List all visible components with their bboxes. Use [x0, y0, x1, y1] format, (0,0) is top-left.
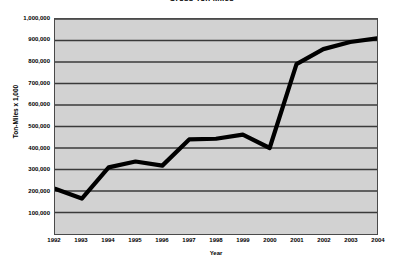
chart-title: Gross Ton Miles [0, 0, 403, 3]
plot-area [54, 18, 378, 235]
x-axis-title: Year [54, 250, 378, 256]
y-tick-label: 800,000 [0, 58, 50, 64]
y-tick-label: 600,000 [0, 101, 50, 107]
y-tick-label: 1,000,000 [0, 15, 50, 21]
y-tick-label: 500,000 [0, 123, 50, 129]
plot-svg [55, 19, 377, 234]
y-tick-label: 200,000 [0, 188, 50, 194]
y-tick-label: 700,000 [0, 80, 50, 86]
x-tick-label: 2004 [358, 237, 398, 243]
y-axis-tick-labels: 100,000200,000300,000400,000500,000600,0… [0, 0, 50, 265]
y-tick-label: 400,000 [0, 145, 50, 151]
gross-ton-miles-chart: Gross Ton Miles Ton-Miles x 1,000 100,00… [0, 0, 403, 265]
y-tick-label: 300,000 [0, 166, 50, 172]
y-tick-label: 900,000 [0, 36, 50, 42]
x-axis-tick-labels: 1992199319941995199619971998199920002001… [54, 237, 378, 249]
y-tick-label: 100,000 [0, 210, 50, 216]
